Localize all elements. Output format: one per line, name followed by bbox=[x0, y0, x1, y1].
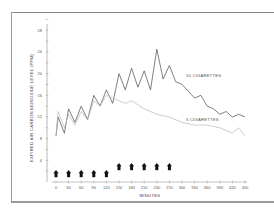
y-tick-label: 12 bbox=[38, 114, 43, 119]
x-tick-label: 30 bbox=[66, 185, 71, 190]
cigarette-arrow-icon bbox=[142, 163, 147, 170]
x-tick-label: 210 bbox=[141, 185, 148, 190]
x-tick-label: 0 bbox=[55, 185, 58, 190]
x-tick-label: 120 bbox=[103, 185, 110, 190]
cigarette-arrow-icon bbox=[167, 163, 172, 170]
co-level-line-chart: 4812162024280306090120150180210240270300… bbox=[0, 0, 274, 211]
label-10-cigarettes: 10 CIGARETTES bbox=[186, 73, 221, 78]
cigarette-arrow-icon bbox=[91, 170, 96, 177]
y-tick-label: 28 bbox=[38, 28, 43, 33]
cigarette-arrow-icon bbox=[154, 163, 159, 170]
x-tick-label: 150 bbox=[116, 185, 123, 190]
x-tick-label: 450 bbox=[242, 185, 249, 190]
x-tick-label: 420 bbox=[229, 185, 236, 190]
cigarette-arrow-icon bbox=[104, 170, 109, 177]
x-tick-label: 240 bbox=[153, 185, 160, 190]
y-tick-label: 8 bbox=[40, 136, 43, 141]
x-tick-label: 60 bbox=[79, 185, 84, 190]
series-10-cigarettes-line bbox=[56, 49, 245, 136]
x-tick-label: 90 bbox=[92, 185, 97, 190]
label-5-cigarettes: 5 CIGARETTES bbox=[186, 117, 219, 122]
cigarette-arrow-icon bbox=[116, 163, 121, 170]
cigarette-markers bbox=[53, 163, 172, 177]
cigarette-arrow-icon bbox=[53, 170, 58, 177]
y-tick-label: 20 bbox=[38, 71, 43, 76]
x-tick-label: 300 bbox=[179, 185, 186, 190]
x-tick-label: 330 bbox=[191, 185, 198, 190]
series-lines bbox=[56, 49, 245, 136]
y-tick-label: 24 bbox=[38, 49, 43, 54]
x-tick-label: 360 bbox=[204, 185, 211, 190]
x-tick-label: 270 bbox=[166, 185, 173, 190]
x-tick-label: 390 bbox=[216, 185, 223, 190]
cigarette-arrow-icon bbox=[79, 170, 84, 177]
cigarette-arrow-icon bbox=[129, 163, 134, 170]
y-axis-title: EXPIRED AIR CARBON MONOXIDE LEVEL (PPM) bbox=[29, 54, 34, 162]
y-tick-label: 4 bbox=[40, 158, 43, 163]
x-axis-title: MINUTES bbox=[140, 193, 161, 198]
x-tick-label: 180 bbox=[128, 185, 135, 190]
y-tick-label: 16 bbox=[38, 93, 43, 98]
series-5-cigarettes-line bbox=[56, 95, 245, 136]
cigarette-arrow-icon bbox=[66, 170, 71, 177]
